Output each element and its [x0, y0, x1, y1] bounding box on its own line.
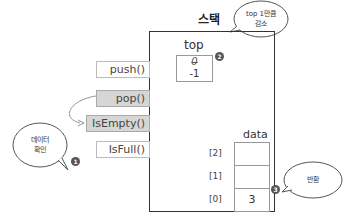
- top-new-value: -1: [177, 68, 212, 80]
- callout-text-1: 데이터 확인: [14, 135, 66, 155]
- step-badge-3: 3: [271, 185, 280, 194]
- data-label: data: [243, 128, 268, 141]
- step-badge-1: 1: [71, 157, 80, 166]
- top-value-box: 0 -1: [176, 55, 213, 82]
- data-cell-1: [234, 165, 270, 189]
- data-index-0: [0]: [209, 194, 222, 204]
- method-isempty: IsEmpty(): [86, 115, 150, 132]
- data-index-2: [2]: [209, 148, 222, 158]
- top-old-value: 0: [177, 56, 212, 68]
- callout-1-line2: 확인: [14, 145, 66, 155]
- callout-2-line2: 감소: [235, 19, 287, 29]
- callout-tail-1: [58, 158, 68, 170]
- callout-1-line1: 데이터: [14, 135, 66, 145]
- method-pop: pop(): [96, 90, 150, 107]
- stack-title: 스택: [198, 10, 220, 27]
- step-badge-2: 2: [215, 52, 224, 61]
- callout-2-line1: top 1만큼: [235, 9, 287, 19]
- callout-text-3: 반환: [287, 175, 339, 185]
- data-cell-0: 3: [234, 188, 270, 212]
- method-isfull: IsFull(): [96, 141, 150, 158]
- data-cell-2: [234, 142, 270, 166]
- data-index-1: [1]: [209, 171, 222, 181]
- callout-text-2: top 1만큼 감소: [235, 9, 287, 29]
- top-label: top: [184, 38, 204, 52]
- method-push: push(): [96, 61, 150, 78]
- callout-3-line1: 반환: [287, 175, 339, 185]
